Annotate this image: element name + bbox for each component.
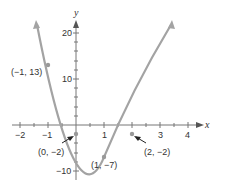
point-2-m2 <box>130 132 134 136</box>
y-axis-label: y <box>73 7 79 18</box>
label-2-m2: (2, −2) <box>144 147 170 157</box>
y-tick-10: 10 <box>62 74 72 84</box>
x-axis <box>12 122 204 128</box>
y-tick-m10: −10 <box>56 166 71 176</box>
x-tick-m1: −1 <box>42 130 52 140</box>
point-1-m7 <box>102 155 106 159</box>
point-0-m2 <box>74 132 78 136</box>
x-axis-label: x <box>204 119 210 130</box>
label-1-m7: (1, −7) <box>91 160 117 170</box>
parabola-chart: −2 −1 1 3 4 20 10 −10 x y (−1, 13) (0, −… <box>0 0 225 186</box>
x-tick-m2: −2 <box>15 130 25 140</box>
label-0-m2: (0, −2) <box>38 147 64 157</box>
y-axis <box>73 20 79 180</box>
x-tick-3: 3 <box>158 130 163 140</box>
arrowhead-2-m2 <box>134 136 141 141</box>
x-tick-4: 4 <box>185 130 190 140</box>
point-m1-13 <box>46 63 50 67</box>
arrowhead-0-m2 <box>67 136 74 141</box>
curve-arrow-left <box>33 20 40 29</box>
curve-arrow-right <box>168 20 175 29</box>
x-tick-1: 1 <box>102 130 107 140</box>
label-m1-13: (−1, 13) <box>11 67 42 77</box>
y-tick-20: 20 <box>62 28 72 38</box>
